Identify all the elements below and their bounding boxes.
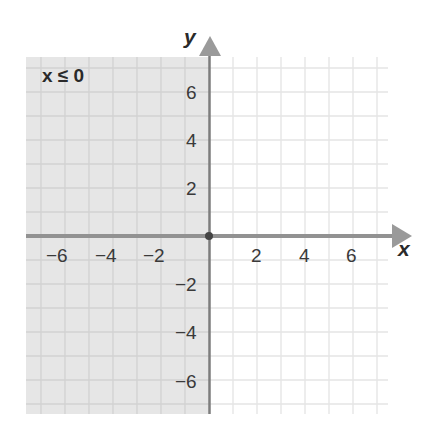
y-tick-label: −6	[175, 371, 197, 392]
x-tick-label: 6	[346, 245, 357, 266]
origin-point	[205, 232, 213, 240]
y-tick-label: 2	[186, 178, 197, 199]
y-tick-label: −4	[175, 322, 197, 343]
inequality-label: x ≤ 0	[42, 65, 84, 86]
x-axis-label: x	[397, 237, 411, 260]
y-tick-label: 6	[186, 82, 197, 103]
x-tick-label: 2	[251, 245, 262, 266]
y-tick-label: −2	[175, 274, 197, 295]
x-tick-label: −6	[46, 245, 68, 266]
y-axis-arrow-icon	[199, 36, 221, 56]
y-axis-label: y	[183, 25, 197, 48]
coordinate-plane: x y x ≤ 0 −6 −4 −2 2 4 6 6 4 2 −2 −4 −6	[0, 0, 432, 441]
x-tick-label: 4	[299, 245, 310, 266]
y-tick-label: 4	[186, 130, 197, 151]
x-tick-label: −4	[95, 245, 117, 266]
x-tick-label: −2	[143, 245, 165, 266]
